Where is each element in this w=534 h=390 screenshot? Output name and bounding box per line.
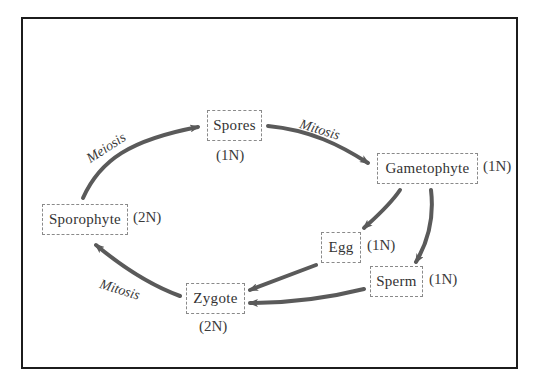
node-spores-label: Spores	[213, 117, 256, 134]
ploidy-egg: (1N)	[367, 237, 395, 254]
ploidy-zygote: (2N)	[199, 318, 227, 335]
arrow-gametophyte-to-egg	[364, 190, 400, 228]
node-gametophyte: Gametophyte	[377, 153, 478, 184]
node-spores: Spores	[207, 110, 262, 141]
node-zygote-label: Zygote	[193, 290, 237, 307]
arrow-gametophyte-to-sperm	[416, 190, 432, 262]
ploidy-sporophyte: (2N)	[133, 209, 161, 226]
node-sporophyte: Sporophyte	[42, 204, 128, 235]
node-sporophyte-label: Sporophyte	[49, 211, 121, 228]
arrow-egg-to-zygote	[250, 265, 316, 290]
arrow-sperm-to-zygote	[250, 289, 364, 303]
arrow-sporophyte-to-spores	[83, 127, 198, 198]
node-sperm: Sperm	[370, 266, 423, 297]
node-egg-label: Egg	[328, 239, 353, 256]
ploidy-sperm: (1N)	[429, 271, 457, 288]
node-egg: Egg	[321, 232, 361, 263]
node-zygote: Zygote	[186, 283, 245, 314]
ploidy-gametophyte: (1N)	[483, 158, 511, 175]
cycle-arrows	[0, 0, 534, 390]
node-sperm-label: Sperm	[376, 273, 417, 290]
ploidy-spores: (1N)	[216, 147, 244, 164]
node-gametophyte-label: Gametophyte	[385, 160, 469, 177]
